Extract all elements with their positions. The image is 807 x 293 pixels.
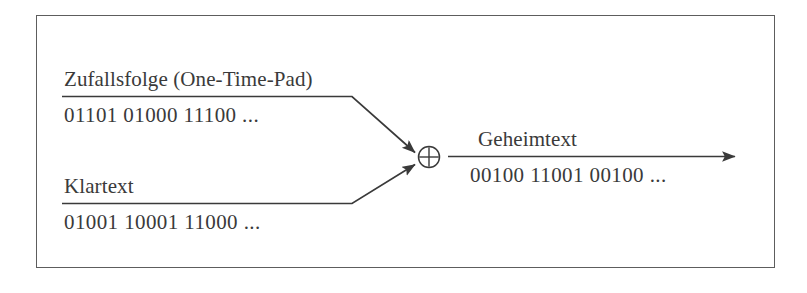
plaintext-label: Klartext [64, 176, 134, 197]
ciphertext-bits: 00100 11001 00100 ... [470, 165, 667, 186]
xor-operator-icon [419, 147, 440, 168]
diagram-vector-layer [0, 0, 807, 293]
figure-canvas: Zufallsfolge (One-Time-Pad) 01101 01000 … [0, 0, 807, 293]
plaintext-bits: 01001 10001 11000 ... [64, 212, 261, 233]
key-label: Zufallsfolge (One-Time-Pad) [64, 69, 313, 90]
ciphertext-label: Geheimtext [478, 129, 577, 150]
key-bits: 01101 01000 11100 ... [64, 105, 259, 126]
